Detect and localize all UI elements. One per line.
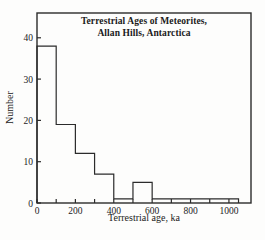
y-tick-label: 40 xyxy=(24,33,34,43)
y-tick-label: 10 xyxy=(24,157,34,167)
x-axis-label: Terrestrial age, ka xyxy=(37,212,251,223)
plot-border xyxy=(37,13,251,203)
chart-title-line2: Allan Hills, Antarctica xyxy=(37,27,251,39)
chart-title-line1: Terrestrial Ages of Meteorites, xyxy=(37,15,251,27)
y-tick-label: 30 xyxy=(24,75,34,85)
y-axis-label: Number xyxy=(4,58,15,158)
chart-title: Terrestrial Ages of Meteorites, Allan Hi… xyxy=(37,15,251,39)
meteorite-age-histogram-figure: 02004006008001000010203040 Terrestrial A… xyxy=(0,0,265,240)
y-tick-label: 0 xyxy=(28,199,33,209)
y-tick-label: 20 xyxy=(24,116,34,126)
histogram-outline xyxy=(37,46,239,203)
